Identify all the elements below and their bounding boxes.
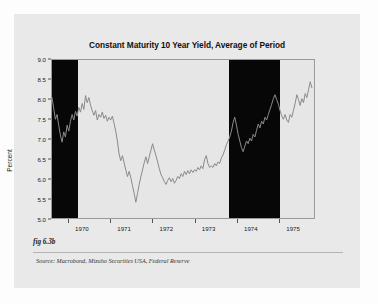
y-tick-label: 6.0 bbox=[38, 176, 46, 183]
y-tick-label: 8.5 bbox=[38, 76, 46, 83]
x-tick-label: 1974 bbox=[244, 225, 258, 232]
x-tick-label: 1970 bbox=[75, 225, 89, 232]
y-tick-label: 6.5 bbox=[38, 156, 46, 163]
figure-number-label: fig 6.3b bbox=[33, 238, 55, 246]
y-tick-label: 5.0 bbox=[38, 216, 46, 223]
x-axis: 197019711972197319741975 bbox=[51, 219, 315, 243]
x-tick-mark bbox=[68, 219, 69, 223]
x-tick-mark bbox=[237, 219, 238, 223]
x-tick-label: 1973 bbox=[202, 225, 216, 232]
yield-series-line bbox=[52, 60, 314, 218]
y-tick-label: 8.0 bbox=[38, 96, 46, 103]
x-tick-label: 1975 bbox=[286, 225, 300, 232]
y-axis-title: Percent bbox=[6, 149, 13, 172]
plot-area bbox=[51, 59, 315, 219]
y-axis: Percent 9.08.58.07.57.06.56.05.55.0 bbox=[14, 59, 51, 219]
figure-card: Constant Maturity 10 Year Yield, Average… bbox=[14, 14, 360, 288]
footer-divider bbox=[33, 252, 343, 253]
y-tick-label: 9.0 bbox=[38, 56, 46, 63]
y-tick-label: 7.5 bbox=[38, 116, 46, 123]
y-tick-label: 5.5 bbox=[38, 196, 46, 203]
x-tick-mark bbox=[279, 219, 280, 223]
x-tick-mark bbox=[152, 219, 153, 223]
x-tick-label: 1972 bbox=[160, 225, 174, 232]
source-note: Source: Macrobond, Mizuho Securities USA… bbox=[36, 257, 190, 264]
figure-page: Constant Maturity 10 Year Yield, Average… bbox=[0, 0, 378, 304]
x-tick-mark bbox=[195, 219, 196, 223]
y-tick-label: 7.0 bbox=[38, 136, 46, 143]
x-tick-mark bbox=[110, 219, 111, 223]
x-tick-label: 1971 bbox=[117, 225, 131, 232]
chart-title: Constant Maturity 10 Year Yield, Average… bbox=[14, 40, 360, 50]
